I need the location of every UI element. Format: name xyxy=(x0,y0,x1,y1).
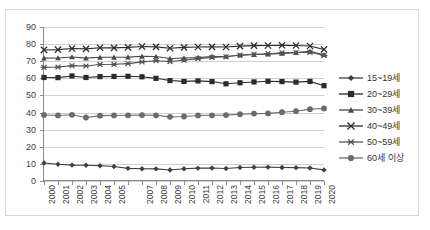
legend-item-4[interactable]: 40~49세 xyxy=(338,118,430,134)
x-axis-tick-label: 2010 xyxy=(188,185,197,204)
legend-item-5[interactable]: 50~59세 xyxy=(338,134,430,150)
x-axis-tick-label: 2005 xyxy=(118,185,127,204)
data-point-asterisk xyxy=(41,65,48,70)
y-axis-tick-label: 20 xyxy=(6,143,36,152)
data-point-asterisk xyxy=(55,65,62,70)
data-point-square xyxy=(181,79,186,84)
x-axis-tick-label: 2014 xyxy=(244,185,253,204)
data-point-circle xyxy=(321,106,327,112)
data-point-asterisk xyxy=(347,139,355,145)
x-axis-tick-label: 2020 xyxy=(328,185,337,204)
data-point-square xyxy=(223,81,228,86)
x-axis-tick-label: 2013 xyxy=(230,185,239,204)
legend-label: 15~19세 xyxy=(367,73,400,83)
data-point-square xyxy=(348,91,354,97)
data-point-square xyxy=(55,75,60,80)
data-point-diamond xyxy=(181,166,186,171)
series-6 xyxy=(41,106,327,121)
data-point-circle xyxy=(223,112,229,118)
data-point-square xyxy=(167,78,172,83)
data-point-asterisk xyxy=(97,62,104,67)
data-point-square xyxy=(83,75,88,80)
data-point-square xyxy=(279,79,284,84)
y-axis-tick-label: 40 xyxy=(6,109,36,118)
data-point-circle xyxy=(307,106,313,112)
data-point-circle xyxy=(279,109,285,115)
legend-item-1[interactable]: 15~19세 xyxy=(338,70,430,86)
data-point-diamond xyxy=(55,162,60,167)
data-point-circle xyxy=(97,113,103,119)
data-point-asterisk xyxy=(153,58,160,63)
data-point-asterisk xyxy=(139,59,146,64)
series-layer xyxy=(44,27,324,181)
data-point-diamond xyxy=(83,163,88,168)
x-axis-tick-label: 2018 xyxy=(300,185,309,204)
y-axis-tick-label: 50 xyxy=(6,91,36,100)
legend-item-3[interactable]: 30~39세 xyxy=(338,102,430,118)
x-axis-labels: 2000200120022003200420052007200820092010… xyxy=(44,185,324,225)
data-point-diamond xyxy=(139,166,144,171)
y-axis-tick-label: 70 xyxy=(6,57,36,66)
legend-marker-square-icon xyxy=(338,87,364,101)
y-axis-tick-label: 80 xyxy=(6,40,36,49)
data-point-square xyxy=(41,75,46,80)
x-axis-tick-label: 2016 xyxy=(272,185,281,204)
x-axis-tick-label: 2002 xyxy=(76,185,85,204)
data-point-circle xyxy=(265,111,271,117)
data-point-circle xyxy=(181,114,187,120)
data-point-circle xyxy=(167,114,173,120)
legend-marker-diamond-icon xyxy=(338,71,364,85)
x-axis-tick-label: 2000 xyxy=(48,185,57,204)
legend-label: 20~29세 xyxy=(367,89,400,99)
data-point-diamond xyxy=(153,166,158,171)
legend-marker-triangle-icon xyxy=(338,103,364,117)
series-1 xyxy=(41,160,326,172)
data-point-diamond xyxy=(111,164,116,169)
legend-label: 50~59세 xyxy=(367,137,400,147)
data-point-circle xyxy=(55,113,61,119)
x-axis-tick-label: 2008 xyxy=(160,185,169,204)
data-point-circle xyxy=(348,155,354,161)
x-axis-tick-label: 2012 xyxy=(216,185,225,204)
data-point-circle xyxy=(41,112,47,118)
data-point-diamond xyxy=(125,166,130,171)
y-axis-tick-label: 60 xyxy=(6,74,36,83)
data-point-diamond xyxy=(69,162,74,167)
data-point-diamond xyxy=(348,75,354,81)
x-axis-tick-label: 2011 xyxy=(202,185,211,203)
data-point-asterisk xyxy=(111,62,118,67)
data-point-square xyxy=(293,79,298,84)
legend-item-6[interactable]: 60세 이상 xyxy=(338,150,430,166)
data-point-square xyxy=(125,74,130,79)
data-point-diamond xyxy=(279,165,284,170)
y-axis-tick-label: 0 xyxy=(6,177,36,186)
x-axis-tick-label: 2007 xyxy=(146,185,155,204)
data-point-diamond xyxy=(195,165,200,170)
data-point-square xyxy=(237,80,242,85)
data-point-diamond xyxy=(321,167,326,172)
y-axis-tick-label: 30 xyxy=(6,126,36,135)
data-point-square xyxy=(97,74,102,79)
data-point-diamond xyxy=(237,165,242,170)
data-point-diamond xyxy=(167,167,172,172)
x-axis-tick-label: 2004 xyxy=(104,185,113,204)
y-axis-tick-label: 10 xyxy=(6,160,36,169)
data-point-circle xyxy=(237,111,243,117)
x-axis-tick-label: 2001 xyxy=(62,185,71,204)
data-point-diamond xyxy=(293,165,298,170)
data-point-diamond xyxy=(265,164,270,169)
legend-label: 40~49세 xyxy=(367,121,400,131)
data-point-circle xyxy=(69,112,75,118)
data-point-asterisk xyxy=(69,63,76,68)
data-point-asterisk xyxy=(125,61,132,66)
x-axis-tick-label: 2015 xyxy=(258,185,267,204)
y-axis-labels: 0102030405060708090 xyxy=(6,27,40,181)
data-point-diamond xyxy=(307,165,312,170)
data-point-square xyxy=(307,79,312,84)
data-point-square xyxy=(153,76,158,81)
legend-marker-circle-icon xyxy=(338,151,364,165)
legend-marker-asterisk-icon xyxy=(338,135,364,149)
legend-label: 30~39세 xyxy=(367,105,400,115)
legend-item-2[interactable]: 20~29세 xyxy=(338,86,430,102)
data-point-square xyxy=(251,79,256,84)
